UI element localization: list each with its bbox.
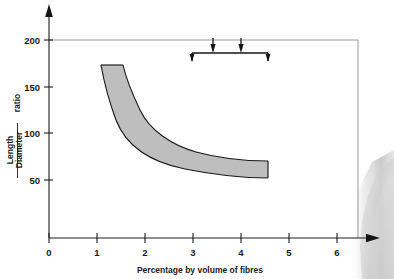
y-axis-up-arrow-icon [45, 4, 53, 17]
bracket-down-arrow-left-icon [210, 44, 215, 53]
y-tick-label-150: 150 [24, 82, 40, 93]
x-tick-label-6: 6 [334, 247, 339, 258]
x-axis-title: Percentage by volume of fibres [137, 265, 263, 275]
x-tick-label-0: 0 [46, 247, 51, 258]
scanned-page-edge-artifact [330, 148, 394, 279]
x-tick-label-1: 1 [94, 247, 100, 258]
data-band [101, 65, 268, 178]
y-tick-label-200: 200 [24, 35, 40, 46]
y-axis: 200 150 100 50 [24, 4, 53, 238]
chart-canvas: 200 150 100 50 Length Diameter ratio [0, 0, 394, 279]
plot-frame [49, 40, 358, 238]
x-tick-label-4: 4 [238, 247, 244, 258]
y-axis-ratio-label: ratio [12, 94, 22, 112]
figure-container: 200 150 100 50 Length Diameter ratio [0, 0, 394, 279]
y-axis-title-group: Length Diameter ratio [5, 94, 24, 178]
x-tick-label-3: 3 [190, 247, 195, 258]
x-tick-label-5: 5 [286, 247, 292, 258]
x-axis-right-arrow-icon [366, 234, 380, 242]
y-tick-label-50: 50 [29, 175, 40, 186]
y-axis-denominator-label: Diameter [14, 131, 24, 168]
y-tick-label-100: 100 [24, 128, 40, 139]
bracket-down-arrow-right-icon [238, 44, 243, 53]
x-axis: 0 1 2 3 4 5 6 Percentage by volume of fi… [46, 233, 380, 275]
range-bracket-annotation [190, 38, 271, 62]
x-tick-label-2: 2 [142, 247, 147, 258]
